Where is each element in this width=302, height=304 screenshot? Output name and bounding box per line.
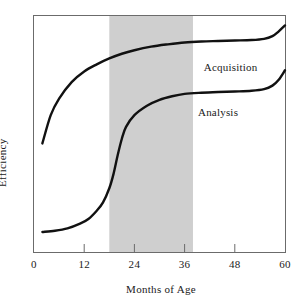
chart-figure: 01224364860 AcquisitionAnalysis Months o… — [0, 0, 302, 304]
x-tick-label: 24 — [129, 258, 141, 270]
x-axis-title: Months of Age — [126, 283, 196, 295]
y-axis-title: Efficiency — [0, 138, 8, 187]
x-tick-label: 48 — [229, 258, 241, 270]
chart-canvas — [0, 0, 302, 304]
x-tick-label: 0 — [31, 258, 37, 270]
x-tick-label: 60 — [279, 258, 291, 270]
x-tick-label: 36 — [179, 258, 191, 270]
x-tick-label: 12 — [78, 258, 90, 270]
shaded-region-band — [109, 16, 193, 252]
series-label-acquisition: Acquisition — [204, 61, 258, 73]
series-label-analysis: Analysis — [198, 106, 238, 118]
